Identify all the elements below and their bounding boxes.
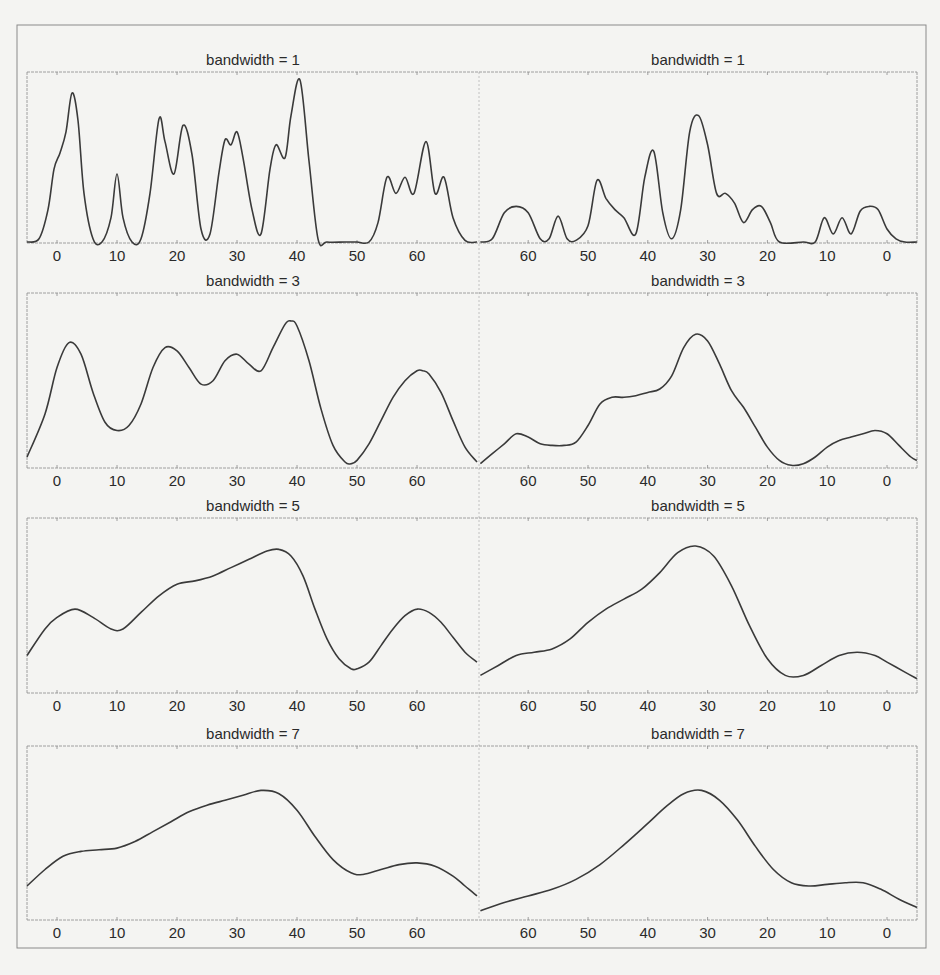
x-tick-label: 50 bbox=[580, 924, 597, 941]
x-tick-label: 60 bbox=[409, 697, 426, 714]
density-figure: bandwidth = 10102030405060bandwidth = 16… bbox=[0, 0, 940, 975]
x-tick-label: 10 bbox=[109, 472, 126, 489]
x-tick-label: 50 bbox=[349, 697, 366, 714]
x-tick-label: 0 bbox=[883, 247, 891, 264]
x-tick-label: 60 bbox=[409, 924, 426, 941]
x-tick-label: 20 bbox=[169, 247, 186, 264]
x-tick-label: 50 bbox=[349, 924, 366, 941]
x-tick-label: 0 bbox=[53, 697, 61, 714]
x-tick-label: 30 bbox=[229, 247, 246, 264]
x-tick-label: 10 bbox=[819, 247, 836, 264]
x-tick-label: 40 bbox=[289, 247, 306, 264]
x-tick-label: 60 bbox=[520, 924, 537, 941]
panels: bandwidth = 10102030405060bandwidth = 16… bbox=[27, 51, 917, 941]
density-curve bbox=[27, 790, 477, 896]
panel-title: bandwidth = 7 bbox=[651, 725, 745, 742]
panel-title: bandwidth = 3 bbox=[206, 272, 300, 289]
density-curve bbox=[480, 334, 917, 465]
density-curve bbox=[27, 79, 477, 246]
x-tick-label: 0 bbox=[883, 697, 891, 714]
x-tick-label: 0 bbox=[53, 924, 61, 941]
x-tick-label: 40 bbox=[639, 472, 656, 489]
x-tick-label: 0 bbox=[883, 472, 891, 489]
x-tick-label: 0 bbox=[53, 247, 61, 264]
x-tick-label: 60 bbox=[520, 247, 537, 264]
density-curve bbox=[480, 546, 917, 679]
x-tick-label: 60 bbox=[520, 697, 537, 714]
x-tick-label: 40 bbox=[289, 472, 306, 489]
x-tick-label: 20 bbox=[169, 924, 186, 941]
x-tick-label: 50 bbox=[580, 247, 597, 264]
density-panel-left-2: bandwidth = 30102030405060 bbox=[27, 272, 479, 489]
x-tick-label: 60 bbox=[409, 247, 426, 264]
x-tick-label: 20 bbox=[759, 697, 776, 714]
panel-title: bandwidth = 3 bbox=[651, 272, 745, 289]
x-tick-label: 30 bbox=[699, 472, 716, 489]
density-curve bbox=[480, 115, 917, 244]
x-tick-label: 10 bbox=[109, 924, 126, 941]
x-tick-label: 10 bbox=[819, 697, 836, 714]
density-curve bbox=[27, 549, 477, 670]
x-tick-label: 40 bbox=[289, 697, 306, 714]
density-panel-left-1: bandwidth = 10102030405060 bbox=[27, 51, 479, 264]
panel-title: bandwidth = 5 bbox=[206, 497, 300, 514]
panel-title: bandwidth = 1 bbox=[206, 51, 300, 68]
x-tick-label: 10 bbox=[819, 924, 836, 941]
x-tick-label: 30 bbox=[699, 924, 716, 941]
x-tick-label: 10 bbox=[109, 247, 126, 264]
x-tick-label: 60 bbox=[409, 472, 426, 489]
x-tick-label: 20 bbox=[759, 924, 776, 941]
x-tick-label: 10 bbox=[109, 697, 126, 714]
x-tick-label: 30 bbox=[699, 697, 716, 714]
density-panel-right-4: bandwidth = 76050403020100 bbox=[479, 725, 917, 941]
density-curve bbox=[27, 321, 477, 464]
x-tick-label: 30 bbox=[699, 247, 716, 264]
x-tick-label: 40 bbox=[289, 924, 306, 941]
density-panel-left-4: bandwidth = 70102030405060 bbox=[27, 725, 479, 941]
x-tick-label: 0 bbox=[53, 472, 61, 489]
x-tick-label: 50 bbox=[349, 247, 366, 264]
x-tick-label: 30 bbox=[229, 697, 246, 714]
x-tick-label: 30 bbox=[229, 472, 246, 489]
x-tick-label: 50 bbox=[580, 472, 597, 489]
x-tick-label: 40 bbox=[639, 247, 656, 264]
x-tick-label: 20 bbox=[169, 472, 186, 489]
density-panel-left-3: bandwidth = 50102030405060 bbox=[27, 497, 479, 714]
panel-title: bandwidth = 1 bbox=[651, 51, 745, 68]
x-tick-label: 10 bbox=[819, 472, 836, 489]
x-tick-label: 50 bbox=[349, 472, 366, 489]
x-tick-label: 20 bbox=[759, 247, 776, 264]
density-panel-right-3: bandwidth = 56050403020100 bbox=[479, 497, 917, 714]
x-tick-label: 50 bbox=[580, 697, 597, 714]
x-tick-label: 60 bbox=[520, 472, 537, 489]
x-tick-label: 20 bbox=[169, 697, 186, 714]
x-tick-label: 0 bbox=[883, 924, 891, 941]
x-tick-label: 40 bbox=[639, 924, 656, 941]
panel-title: bandwidth = 5 bbox=[651, 497, 745, 514]
x-tick-label: 40 bbox=[639, 697, 656, 714]
density-panel-right-2: bandwidth = 36050403020100 bbox=[479, 272, 917, 489]
panel-title: bandwidth = 7 bbox=[206, 725, 300, 742]
density-panel-right-1: bandwidth = 16050403020100 bbox=[479, 51, 917, 264]
x-tick-label: 20 bbox=[759, 472, 776, 489]
x-tick-label: 30 bbox=[229, 924, 246, 941]
density-curve bbox=[480, 790, 917, 911]
